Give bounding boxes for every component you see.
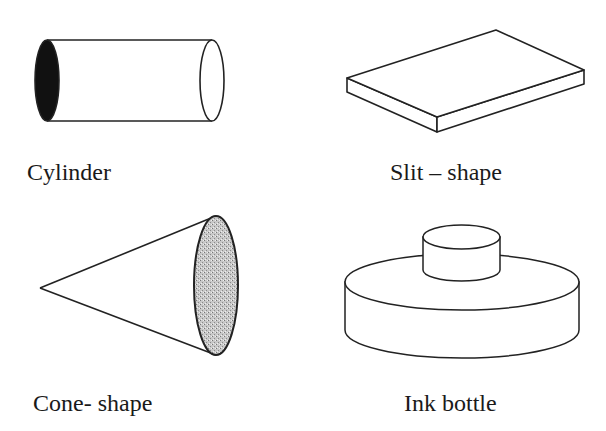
cone-shape — [40, 216, 238, 355]
cylinder-shape — [35, 40, 224, 121]
ink-bottle-label: Ink bottle — [404, 391, 497, 415]
slit-shape-label: Slit – shape — [390, 160, 502, 184]
cylinder-label: Cylinder — [27, 160, 111, 184]
ink-bottle-shape — [345, 225, 579, 358]
shapes-diagram — [0, 0, 606, 431]
slit-shape — [347, 30, 584, 132]
cone-base — [194, 216, 238, 355]
cylinder-end-cap — [35, 40, 59, 121]
cone-shape-label: Cone- shape — [33, 391, 152, 415]
